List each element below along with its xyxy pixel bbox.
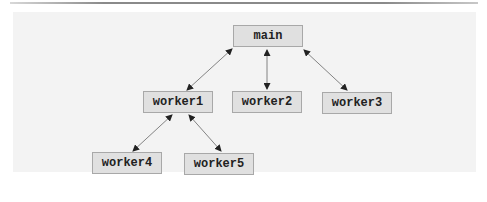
node-worker1: worker1	[143, 91, 213, 113]
node-worker3: worker3	[322, 92, 392, 114]
edge-worker1-worker5	[189, 115, 221, 151]
node-worker4: worker4	[92, 152, 162, 174]
node-worker2: worker2	[232, 91, 302, 113]
edge-main-worker3	[304, 50, 347, 90]
node-main: main	[233, 25, 303, 47]
edge-main-worker1	[187, 49, 232, 90]
edge-worker1-worker4	[133, 115, 172, 151]
node-worker5: worker5	[184, 153, 254, 175]
